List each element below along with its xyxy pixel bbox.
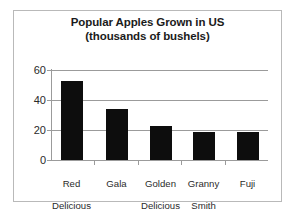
bar-golden-delicious — [150, 126, 172, 161]
x-tick-mark-1 — [94, 161, 95, 165]
x-tick-mark-3 — [181, 161, 182, 165]
bar-granny-smith — [193, 132, 215, 161]
chart-title: Popular Apples Grown in US (thousands of… — [13, 15, 282, 43]
y-tick-label-0: 0 — [24, 155, 46, 166]
chart-figure: Popular Apples Grown in US (thousands of… — [0, 0, 292, 213]
bar-fuji — [237, 132, 259, 160]
y-tick-label-20: 20 — [24, 125, 46, 136]
plot-area — [51, 70, 268, 160]
bar-red-delicious — [61, 81, 83, 161]
x-tick-mark-2 — [138, 161, 139, 165]
x-label-line1: Fuji — [216, 178, 279, 189]
y-tick-label-60: 60 — [24, 65, 46, 76]
x-axis-label-fuji: Fuji — [216, 167, 279, 200]
gridline-40 — [51, 100, 268, 101]
gridline-60 — [51, 70, 268, 71]
y-tick-label-40: 40 — [24, 95, 46, 106]
x-label-line2: Delicious — [40, 200, 103, 211]
bar-gala — [106, 109, 128, 160]
x-tick-mark-4 — [225, 161, 226, 165]
chart-title-line2: (thousands of bushels) — [13, 29, 282, 43]
x-label-line2: Smith — [172, 200, 235, 211]
chart-title-line1: Popular Apples Grown in US — [71, 16, 225, 28]
x-axis-line — [51, 160, 268, 161]
